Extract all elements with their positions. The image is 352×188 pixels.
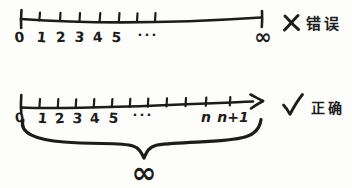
bottom-label-n-plus-1: n+1	[217, 109, 248, 125]
tick-mark	[137, 13, 138, 21]
bottom-label-n: n	[201, 109, 211, 125]
tick-mark	[100, 13, 101, 22]
tick-mark	[206, 98, 207, 106]
tick-mark	[94, 99, 95, 107]
top-infinity-label: ∞	[254, 25, 272, 49]
top-label-5: 5	[111, 29, 122, 46]
top-ellipsis: ···	[138, 27, 159, 42]
bottom-label-3: 3	[72, 110, 83, 127]
bottom-verdict-label: 正确	[311, 100, 345, 116]
bottom-label-4: 4	[89, 110, 100, 127]
top-label-3: 3	[74, 29, 85, 46]
check-icon	[284, 95, 303, 115]
tick-mark	[155, 13, 156, 21]
tick-mark	[119, 13, 120, 21]
tick-mark	[39, 13, 40, 21]
diagram-canvas: 0 1 2 3 4 5 ··· ∞ 错误	[0, 0, 352, 187]
top-verdict-label: 错误	[306, 15, 342, 33]
bottom-tick-labels: 0 1 2 3 4 5 ··· n n+1	[14, 107, 248, 126]
tick-mark	[58, 99, 59, 108]
top-axis-line	[21, 18, 261, 23]
hand-drawn-diagram: 0 1 2 3 4 5 ··· ∞ 错误	[0, 0, 352, 187]
brace-infinity-label: ∞	[132, 155, 157, 187]
tick-mark	[148, 99, 149, 107]
tick-mark	[39, 99, 40, 108]
tick-mark	[80, 13, 81, 21]
arrow-head-stroke	[251, 95, 264, 102]
bottom-verdict: 正确	[284, 95, 346, 117]
top-label-4: 4	[92, 29, 104, 46]
top-number-line: 0 1 2 3 4 5 ··· ∞ 错误	[13, 10, 342, 49]
brace-group: ∞	[22, 120, 261, 188]
bottom-label-1: 1	[37, 110, 48, 127]
bottom-label-5: 5	[108, 110, 119, 127]
tick-mark	[130, 99, 131, 107]
tick-mark	[167, 98, 168, 106]
top-label-2: 2	[55, 29, 66, 46]
tick-mark	[60, 13, 61, 21]
check-icon-stroke	[284, 95, 303, 115]
top-label-1: 1	[36, 29, 47, 46]
bottom-number-line: 0 1 2 3 4 5 ··· n n+1 正确 ∞	[14, 95, 345, 188]
x-icon	[285, 16, 299, 31]
tick-mark	[230, 97, 231, 105]
top-label-0: 0	[13, 28, 25, 45]
tick-mark	[112, 99, 113, 107]
bottom-label-2: 2	[54, 110, 65, 127]
top-tick-labels: 0 1 2 3 4 5 ··· ∞	[13, 25, 271, 49]
top-verdict: 错误	[285, 15, 343, 33]
bottom-ellipsis: ···	[133, 107, 154, 122]
tick-mark	[186, 98, 187, 106]
tick-mark	[76, 99, 77, 108]
